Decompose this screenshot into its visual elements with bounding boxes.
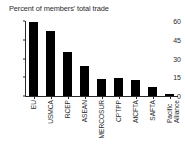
x-axis-tick-mark: [170, 97, 171, 99]
y-axis-tick-mark: [23, 58, 25, 59]
x-axis-tick-label: USMCA: [47, 100, 54, 124]
bar: [148, 87, 157, 96]
x-axis-tick-label: Pacific Alliance: [166, 100, 180, 123]
bar: [63, 52, 72, 96]
bar: [165, 94, 174, 97]
y-axis-line: [25, 21, 26, 97]
y-axis-tick-mark: [23, 21, 25, 22]
x-axis-tick-mark: [102, 97, 103, 99]
x-axis-tick-label: EU: [30, 100, 37, 109]
y-axis-tick-mark: [23, 39, 25, 40]
chart-title: Percent of members' total trade: [9, 4, 109, 13]
x-axis-tick-mark: [153, 97, 154, 99]
x-axis-tick-mark: [136, 97, 137, 99]
bar: [131, 80, 140, 96]
y-axis-tick-label: 60: [173, 18, 181, 25]
bar-chart: Percent of members' total trade 01530456…: [0, 0, 185, 150]
bar: [29, 22, 38, 96]
x-axis-tick-label: SAFTA: [149, 100, 156, 121]
bar: [80, 66, 89, 96]
x-axis-tick-mark: [119, 97, 120, 99]
x-axis-tick-mark: [51, 97, 52, 99]
bar: [114, 78, 123, 96]
x-axis-tick-mark: [68, 97, 69, 99]
y-axis-tick-mark: [23, 96, 25, 97]
x-axis-tick-label: RCEP: [64, 100, 71, 118]
x-axis-tick-label: AfCFTA: [132, 100, 139, 123]
y-axis-tick-label: 30: [173, 55, 181, 62]
x-axis-tick-mark: [85, 97, 86, 99]
y-axis-tick-label: 15: [173, 74, 181, 81]
x-axis-tick-label: ASEAN: [81, 100, 88, 122]
y-axis-tick-label: 45: [173, 36, 181, 43]
y-axis: [0, 14, 25, 104]
bar: [97, 79, 106, 97]
x-axis-tick-label: MERCOSUR: [98, 100, 105, 138]
y-axis-tick-mark: [23, 77, 25, 78]
y-axis-tick-label: 0: [177, 93, 181, 100]
x-axis-tick-label: CPTPP: [115, 100, 122, 122]
x-axis-tick-mark: [34, 97, 35, 99]
bar: [46, 31, 55, 96]
